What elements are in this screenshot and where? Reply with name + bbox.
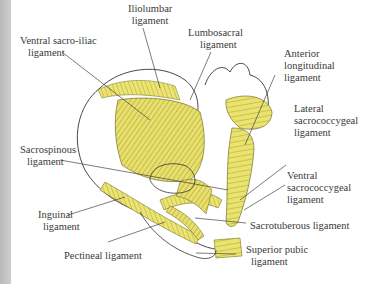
anterior-longitudinal-ligament (226, 96, 272, 129)
label-lumbosacral: Lumbosacralligament (188, 27, 243, 51)
label-anterior-longitudinal: Anteriorlongitudinalligament (284, 48, 335, 84)
superior-pubic-ligament (214, 238, 242, 258)
label-lateral-sacrococcygeal: Lateralsacrococcygealligament (294, 103, 358, 139)
label-sacrotuberous: Sacrotuberous ligament (250, 220, 349, 232)
ventral-sacroiliac-ligament (115, 98, 204, 182)
sacrococcygeal-ligament (226, 128, 254, 227)
label-ventral-sacrococcygeal: Ventralsacrococcygealligament (287, 170, 351, 206)
iliolumbar-ligament (98, 80, 180, 100)
label-iliolumbar: Iliolumbarligament (128, 3, 172, 27)
label-sacrospinous: Sacrospinousligament (20, 144, 76, 168)
label-ventral-sacroiliac: Ventral sacro-iliacligament (20, 35, 97, 59)
label-superior-pubic: Superior pubicligament (246, 244, 308, 268)
label-inguinal: Inguinalligament (38, 209, 80, 233)
label-pectineal: Pectineal ligament (64, 250, 142, 262)
